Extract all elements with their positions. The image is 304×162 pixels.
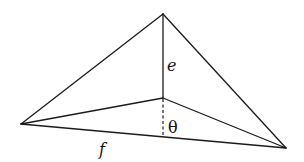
edge-apex-right <box>163 14 286 148</box>
label-e: e <box>167 56 176 75</box>
edge-inner-left <box>21 98 163 124</box>
label-f: f <box>98 140 108 159</box>
label-theta: θ <box>168 118 178 137</box>
edge-inner-right <box>163 98 286 148</box>
edge-apex-left <box>21 14 163 124</box>
edge-f-left-right <box>21 124 286 148</box>
tetrahedron-diagram: e θ f <box>0 0 304 162</box>
